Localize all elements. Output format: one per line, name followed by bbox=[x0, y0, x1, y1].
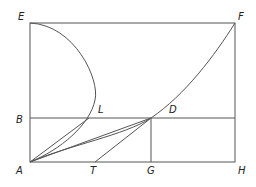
label-t: T bbox=[90, 165, 97, 176]
label-d: D bbox=[169, 104, 177, 115]
line-al bbox=[30, 118, 89, 162]
line-td bbox=[95, 118, 151, 162]
line-ad bbox=[30, 118, 151, 162]
label-b: B bbox=[16, 114, 23, 125]
label-a: A bbox=[15, 165, 23, 176]
curve-e-l-a bbox=[30, 23, 96, 162]
label-l: L bbox=[98, 104, 104, 115]
outer-rectangle bbox=[30, 23, 235, 162]
label-e: E bbox=[18, 11, 25, 22]
geometry-diagram: E F B L D A T G H bbox=[0, 0, 256, 187]
label-g: G bbox=[147, 165, 155, 176]
label-f: F bbox=[238, 11, 244, 22]
curve-a-d-f bbox=[30, 23, 235, 162]
label-h: H bbox=[238, 165, 246, 176]
